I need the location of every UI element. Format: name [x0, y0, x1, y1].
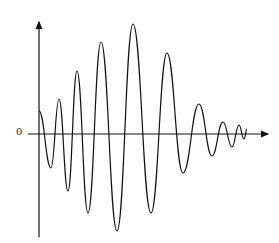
waveform-curve	[39, 24, 247, 231]
waveform-diagram	[0, 0, 279, 243]
